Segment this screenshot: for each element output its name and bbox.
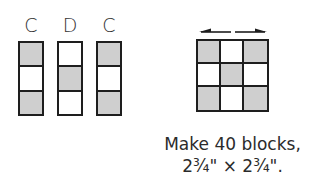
right-arrow-icon [233, 26, 269, 36]
block-cell-shaded [198, 87, 221, 110]
strip-cell-shaded [98, 43, 120, 67]
strip-cell-shaded [20, 92, 42, 114]
block-cell-plain [221, 87, 244, 110]
caption-line-2: 2¾" × 2¾". [150, 156, 315, 177]
strip-c-right [96, 41, 122, 116]
strip-cell-plain [59, 92, 81, 114]
block-cell-shaded [244, 87, 267, 110]
strip-label-c-left: C [18, 15, 44, 35]
strip-cell-shaded [98, 92, 120, 114]
strip-label-c-right: C [96, 15, 122, 35]
block-cell-shaded [198, 41, 221, 64]
block-cell-shaded [221, 64, 244, 87]
nine-patch-block [196, 39, 269, 112]
left-arrow-icon [197, 26, 233, 36]
block-cell-plain [198, 64, 221, 87]
strip-c-left [18, 41, 44, 116]
strip-cell-shaded [59, 67, 81, 91]
strip-label-d: D [57, 15, 83, 35]
strip-d [57, 41, 83, 116]
strip-cell-shaded [20, 43, 42, 67]
strip-cell-plain [20, 67, 42, 91]
block-cell-shaded [244, 41, 267, 64]
strip-cell-plain [59, 43, 81, 67]
caption-line-1: Make 40 blocks, [150, 134, 315, 155]
block-cell-plain [221, 41, 244, 64]
block-cell-plain [244, 64, 267, 87]
strip-cell-plain [98, 67, 120, 91]
